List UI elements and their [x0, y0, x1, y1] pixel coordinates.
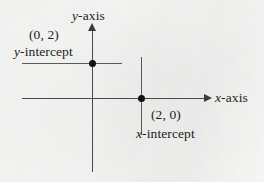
x-intercept-point [138, 95, 145, 102]
x-intercept-name-label: x-intercept [136, 127, 195, 141]
x-axis-label-suffix: -axis [221, 90, 248, 105]
y-axis-label: y-axis [72, 9, 105, 23]
y-intercept-name-suffix: -intercept [20, 44, 73, 59]
x-axis-label: x-axis [215, 91, 248, 105]
y-intercept-coordinate-label: (0, 2) [29, 28, 59, 42]
x-axis-arrowhead [204, 94, 212, 102]
coordinate-axes-figure: y-axis x-axis (0, 2) y-intercept (2, 0) … [0, 0, 264, 182]
y-axis-line [92, 30, 93, 172]
x-axis-line [22, 98, 206, 99]
x-intercept-coordinate-label: (2, 0) [151, 108, 181, 122]
x-intercept-name-suffix: -intercept [142, 126, 195, 141]
y-intercept-name-label: y-intercept [14, 45, 73, 59]
y-intercept-guide-line [22, 63, 122, 64]
y-axis-arrowhead [88, 23, 96, 31]
y-axis-label-suffix: -axis [78, 8, 105, 23]
y-intercept-point [89, 60, 96, 67]
